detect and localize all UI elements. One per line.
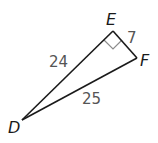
vertex-label-F: F <box>140 51 150 70</box>
side-label-DE: 24 <box>49 53 68 71</box>
triangle-svg: E F D 24 7 25 <box>0 0 158 143</box>
vertex-label-E: E <box>106 10 117 29</box>
side-label-DF: 25 <box>82 90 101 108</box>
right-angle-marker <box>104 40 122 49</box>
side-label-EF: 7 <box>127 29 137 47</box>
vertex-label-D: D <box>8 118 20 137</box>
side-DF <box>22 58 137 120</box>
triangle-diagram: E F D 24 7 25 <box>0 0 158 143</box>
